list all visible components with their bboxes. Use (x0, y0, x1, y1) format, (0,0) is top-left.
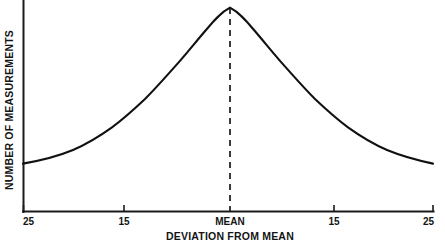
x-tick-label-right-15: 15 (328, 216, 340, 227)
chart-figure: 25 15 MEAN 15 25 DEVIATION FROM MEAN NUM… (0, 0, 445, 246)
x-axis-title: DEVIATION FROM MEAN (166, 230, 294, 242)
bell-curve-plot: 25 15 MEAN 15 25 DEVIATION FROM MEAN NUM… (0, 0, 445, 246)
x-tick-label-right-25: 25 (423, 216, 435, 227)
y-axis-title: NUMBER OF MEASUREMENTS (3, 30, 15, 190)
x-tick-label-left-15: 15 (118, 216, 130, 227)
x-tick-label-left-25: 25 (23, 216, 35, 227)
x-tick-label-mean: MEAN (215, 216, 244, 227)
distribution-curve (23, 8, 433, 164)
